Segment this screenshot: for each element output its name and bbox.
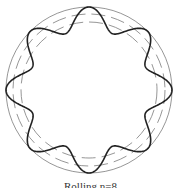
middle-circle (13, 14, 165, 166)
lobed-wave-curve (6, 7, 172, 173)
lobed-profile-diagram (0, 0, 181, 181)
figure-caption: Rolling n=8 (0, 181, 181, 188)
outer-circle (6, 7, 172, 173)
inner-circle (21, 22, 157, 158)
reference-circles (6, 7, 172, 173)
